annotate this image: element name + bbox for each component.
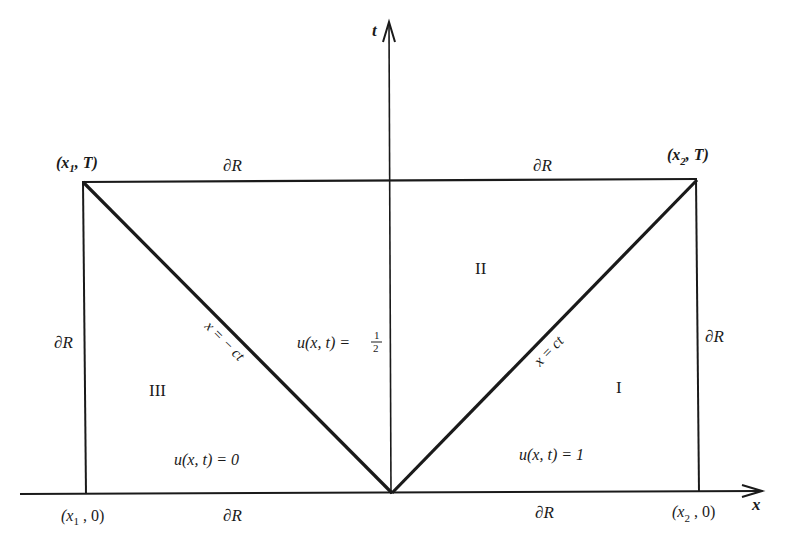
x-axis-label: x: [751, 495, 761, 514]
right-characteristic-label: x = ct: [530, 332, 567, 370]
value-label-region-I: u(x, t) = 1: [519, 446, 584, 464]
region-label-III: III: [149, 381, 166, 400]
right-boundary: [696, 179, 699, 492]
value-label-region-II: u(x, t) = 1 2: [297, 329, 382, 354]
corner-label-bottom-right: (x2 , 0): [672, 503, 715, 524]
boundary-label-bottom-right: ∂R: [535, 503, 554, 522]
region-label-II: II: [475, 259, 487, 278]
wave-equation-domain-diagram: t x (x1, T) (x2, T) (x1 , 0) (x2 , 0) ∂R…: [0, 0, 790, 544]
value-label-region-III: u(x, t) = 0: [174, 451, 239, 469]
boundary-label-top-left: ∂R: [223, 156, 242, 175]
fraction-denominator: 2: [373, 342, 379, 354]
t-axis-label: t: [372, 21, 378, 40]
t-axis: [389, 24, 391, 494]
boundary-label-left: ∂R: [54, 333, 73, 352]
boundary-label-top-right: ∂R: [533, 156, 552, 175]
top-boundary: [82, 179, 697, 182]
boundary-label-bottom-left: ∂R: [223, 506, 242, 525]
boundary-label-right: ∂R: [705, 327, 724, 346]
value-label-region-II-prefix: u(x, t) =: [297, 334, 350, 352]
left-boundary: [83, 182, 86, 494]
corner-label-bottom-left: (x1 , 0): [61, 507, 104, 527]
corner-label-top-left: (x1, T): [56, 154, 98, 174]
region-label-I: I: [616, 378, 622, 397]
fraction-numerator: 1: [374, 329, 380, 341]
corner-label-top-right: (x2, T): [667, 146, 709, 167]
